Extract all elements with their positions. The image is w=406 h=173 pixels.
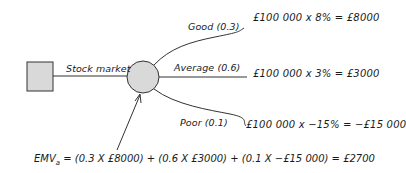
chance-node (127, 61, 159, 93)
good-branch (154, 28, 244, 65)
emv-expression: = (0.3 X £8000) + (0.6 X £3000) + (0.1 X… (60, 153, 375, 164)
outcome-label-average: Average (0.6) (174, 62, 240, 73)
outcome-calc-average: £100 000 x 3% = £3000 (253, 68, 380, 79)
emv-formula: EMVa = (0.3 X £8000) + (0.6 X £3000) + (… (34, 153, 375, 167)
outcome-calc-poor: £100 000 x −15% = −£15 000 (246, 119, 406, 130)
outcome-calc-good: £100 000 x 8% = £8000 (253, 12, 380, 23)
emv-prefix: EMV (34, 153, 56, 164)
decision-branch-label: Stock market (66, 63, 131, 74)
outcome-label-poor: Poor (0.1) (180, 117, 228, 128)
emv-arrow-shaft (117, 95, 140, 150)
decision-node (27, 62, 53, 91)
outcome-label-good: Good (0.3) (188, 21, 240, 32)
